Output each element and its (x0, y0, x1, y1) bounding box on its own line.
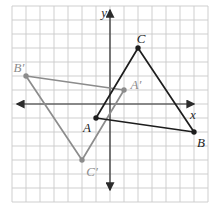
triangles: A′B′C′ABC (14, 31, 205, 179)
x-axis-label: x (189, 107, 196, 122)
vertex-label-C: C (137, 31, 146, 46)
vertex-label-B: B (197, 135, 205, 150)
vertex-dot-A (93, 115, 98, 120)
vertex-label-A: A (82, 120, 91, 135)
vertex-dot-B (191, 129, 196, 134)
y-axis-label: y (99, 5, 107, 20)
vertex-label-B-prime: B′ (14, 60, 25, 75)
vertex-label-A-prime: A′ (130, 77, 142, 92)
coordinate-plane: x y A′B′C′ABC (0, 0, 220, 215)
vertex-label-C-prime: C′ (86, 164, 98, 179)
vertex-dot-C (135, 45, 140, 50)
vertex-dot-C-prime (79, 157, 84, 162)
figure-container: x y A′B′C′ABC (0, 0, 220, 215)
axes: x y (17, 5, 196, 190)
vertex-dot-A-prime (121, 87, 126, 92)
